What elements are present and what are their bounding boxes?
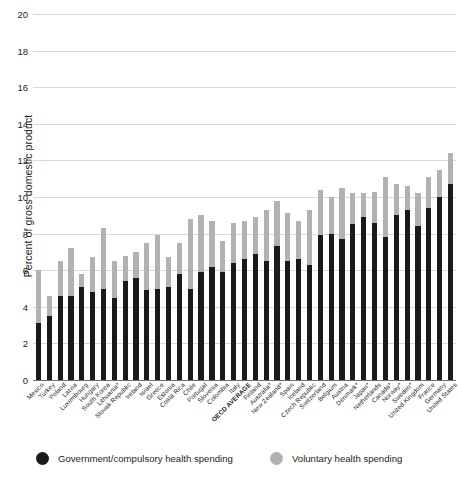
bar-segment-voluntary	[242, 221, 247, 259]
bar-column	[66, 14, 77, 380]
y-axis-tick-label: 12	[17, 155, 28, 166]
bar-segment-voluntary	[285, 213, 290, 261]
bar-stack	[394, 184, 399, 380]
bar-column	[174, 14, 185, 380]
bar-segment-government	[394, 215, 399, 380]
bar-stack	[361, 193, 366, 380]
bar-stack	[242, 221, 247, 380]
bar-segment-voluntary	[318, 190, 323, 236]
bar-stack	[209, 221, 214, 380]
legend-item-government: Government/compulsory health spending	[36, 452, 233, 465]
bar-stack	[350, 193, 355, 380]
y-axis-tick-label: 4	[23, 301, 28, 312]
bar-segment-voluntary	[296, 221, 301, 259]
bar-segment-voluntary	[372, 192, 377, 223]
x-axis-labels: MexicoTurkeyPolandLatviaLuxembourgHungar…	[33, 381, 456, 443]
bar-segment-government	[405, 210, 410, 380]
bar-column	[217, 14, 228, 380]
bar-stack	[47, 296, 52, 380]
bar-segment-voluntary	[426, 177, 431, 208]
bar-segment-government	[296, 259, 301, 380]
legend-label-government: Government/compulsory health spending	[58, 453, 233, 464]
bar-segment-government	[58, 296, 63, 380]
legend-label-voluntary: Voluntary health spending	[292, 453, 402, 464]
bar-segment-government	[133, 278, 138, 380]
bar-stack	[112, 261, 117, 380]
bar-segment-government	[437, 197, 442, 380]
bar-segment-voluntary	[220, 241, 225, 272]
bar-segment-government	[68, 296, 73, 380]
bar-segment-voluntary	[231, 223, 236, 263]
bar-segment-voluntary	[448, 153, 453, 184]
bar-column	[55, 14, 66, 380]
bar-stack	[372, 192, 377, 380]
bar-stack	[318, 190, 323, 380]
health-spending-bar-chart: Percent of gross domestic product 024681…	[0, 0, 458, 477]
bar-segment-voluntary	[90, 257, 95, 292]
bar-segment-voluntary	[177, 243, 182, 274]
bar-segment-government	[307, 265, 312, 380]
bar-segment-government	[144, 290, 149, 380]
bar-segment-government	[253, 254, 258, 380]
bar-segment-voluntary	[264, 210, 269, 261]
bar-stack	[220, 241, 225, 380]
bar-segment-government	[383, 237, 388, 380]
bar-stack	[448, 153, 453, 380]
bar-segment-voluntary	[339, 188, 344, 239]
bar-segment-voluntary	[36, 270, 41, 323]
bar-segment-government	[112, 298, 117, 380]
bar-stack	[339, 188, 344, 380]
bar-segment-government	[177, 274, 182, 380]
bar-column	[185, 14, 196, 380]
bar-stack	[253, 217, 258, 380]
bar-column	[380, 14, 391, 380]
bar-column	[76, 14, 87, 380]
bar-column	[87, 14, 98, 380]
bar-column	[369, 14, 380, 380]
bar-column	[261, 14, 272, 380]
y-axis-tick-label: 20	[17, 9, 28, 20]
bar-segment-government	[209, 267, 214, 380]
bar-stack	[307, 210, 312, 380]
bar-segment-voluntary	[209, 221, 214, 267]
bar-segment-government	[350, 224, 355, 380]
bar-column	[163, 14, 174, 380]
bar-segment-government	[339, 239, 344, 380]
bar-segment-government	[123, 281, 128, 380]
bar-column	[315, 14, 326, 380]
bar-stack	[296, 221, 301, 380]
y-axis-tick-label: 14	[17, 118, 28, 129]
bar-column	[293, 14, 304, 380]
bar-column	[152, 14, 163, 380]
bar-stack	[101, 228, 106, 380]
bar-segment-voluntary	[47, 296, 52, 316]
bar-segment-voluntary	[329, 197, 334, 234]
filled-circle-icon	[270, 452, 283, 465]
filled-circle-icon	[36, 452, 49, 465]
y-axis-tick-label: 10	[17, 192, 28, 203]
y-axis-tick-label: 2	[23, 338, 28, 349]
bar-stack	[68, 248, 73, 380]
bar-column	[337, 14, 348, 380]
bar-stack	[79, 274, 84, 380]
bar-column	[402, 14, 413, 380]
bar-segment-government	[415, 226, 420, 380]
bar-segment-government	[372, 223, 377, 380]
bar-stack	[198, 215, 203, 380]
bar-column	[304, 14, 315, 380]
bar-column	[141, 14, 152, 380]
bar-segment-government	[426, 208, 431, 380]
bar-stack	[177, 243, 182, 380]
bar-column	[120, 14, 131, 380]
bar-segment-voluntary	[198, 215, 203, 272]
bar-segment-government	[329, 234, 334, 380]
bar-column	[196, 14, 207, 380]
y-axis-tick-label: 0	[23, 375, 28, 386]
bar-segment-voluntary	[383, 177, 388, 237]
bar-segment-government	[220, 272, 225, 380]
bar-segment-government	[448, 184, 453, 380]
bar-segment-voluntary	[155, 235, 160, 288]
bar-segment-voluntary	[188, 219, 193, 289]
chart-legend: Government/compulsory health spending Vo…	[33, 452, 453, 465]
bar-column	[109, 14, 120, 380]
